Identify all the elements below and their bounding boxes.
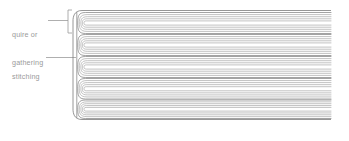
label-stitching: stitching <box>12 53 40 100</box>
bifolium <box>84 65 331 69</box>
bifolium <box>79 37 331 54</box>
bifolium <box>79 81 331 97</box>
bifolium <box>84 107 331 111</box>
bifolium <box>84 21 331 25</box>
label-quire-line1: quire or <box>12 30 43 39</box>
bifolium <box>78 100 331 119</box>
bracket-path <box>68 10 72 33</box>
quire-group-2 <box>78 35 331 56</box>
bifolium <box>82 63 331 71</box>
quire-group-4 <box>78 79 331 100</box>
figure-canvas: quire or gathering stitching <box>0 0 349 141</box>
quire-stack <box>73 11 331 120</box>
bifolium <box>78 35 331 56</box>
bifolium <box>82 106 331 113</box>
codex-quire-diagram <box>0 0 349 141</box>
bifolium <box>82 85 331 93</box>
label-stitching-line1: stitching <box>12 72 40 81</box>
bifolium <box>79 15 331 32</box>
quire-group-5 <box>78 100 331 119</box>
leader-lines <box>46 21 76 58</box>
bifolium <box>78 79 331 100</box>
bifolium <box>84 87 331 91</box>
bifolium <box>78 13 331 34</box>
quire-group-3 <box>78 57 331 78</box>
bifolium <box>79 102 331 117</box>
bifolium <box>79 59 331 76</box>
bifolium <box>84 43 331 47</box>
bifolium <box>82 41 331 49</box>
bifolium <box>82 19 331 27</box>
quire-group-1 <box>78 13 331 34</box>
bifolium <box>78 57 331 78</box>
quire-bracket <box>68 10 72 33</box>
